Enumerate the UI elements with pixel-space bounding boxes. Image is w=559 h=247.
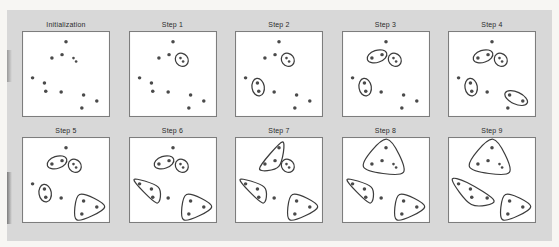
data-point: [256, 81, 260, 84]
data-point: [508, 199, 512, 202]
data-point: [501, 166, 504, 169]
data-point: [521, 205, 525, 208]
data-point: [392, 163, 395, 166]
data-point: [273, 53, 277, 56]
data-point: [506, 212, 510, 215]
data-point: [167, 53, 171, 56]
data-point: [149, 81, 153, 84]
data-point: [179, 163, 182, 166]
panel-step-1: Step 1: [129, 17, 217, 117]
data-point: [31, 76, 35, 79]
panel-plot: [235, 31, 323, 117]
panel-title: Initialization: [22, 17, 110, 31]
clustering-figure: InitializationStep 1Step 2Step 3Step 4St…: [7, 10, 552, 241]
data-point: [256, 187, 260, 190]
data-point: [350, 76, 354, 79]
data-point: [384, 40, 388, 43]
data-point: [401, 93, 405, 96]
data-point: [501, 60, 504, 63]
panel-canvas: [129, 31, 217, 117]
data-point: [457, 76, 461, 79]
data-point: [380, 53, 384, 56]
panel-plot: [342, 31, 430, 117]
data-point: [364, 195, 368, 198]
data-point: [415, 99, 419, 102]
data-point: [43, 187, 47, 190]
data-point: [362, 81, 366, 84]
data-point: [394, 166, 397, 169]
data-point: [171, 40, 175, 43]
data-point: [370, 162, 374, 165]
data-point: [202, 99, 206, 102]
data-point: [82, 199, 86, 202]
panel-title: Step 3: [342, 17, 430, 31]
data-point: [400, 212, 404, 215]
data-point: [31, 182, 35, 185]
data-point: [50, 162, 54, 165]
data-point: [490, 146, 494, 149]
screenshot-root: InitializationStep 1Step 2Step 3Step 4St…: [0, 0, 559, 247]
data-point: [277, 146, 281, 149]
data-point: [188, 93, 192, 96]
data-point: [486, 53, 490, 56]
data-point: [273, 159, 277, 162]
data-point: [295, 199, 299, 202]
panel-canvas: [342, 137, 430, 223]
data-point: [498, 163, 501, 166]
data-point: [295, 93, 299, 96]
panel-plot: [129, 31, 217, 117]
data-point: [60, 53, 64, 56]
panel-canvas: [342, 31, 430, 117]
data-point: [179, 57, 182, 60]
panel-grid: InitializationStep 1Step 2Step 3Step 4St…: [22, 17, 536, 223]
data-point: [257, 195, 261, 198]
data-point: [166, 90, 170, 93]
panel-plot: [22, 31, 110, 117]
data-point: [470, 89, 474, 92]
data-point: [469, 187, 473, 190]
panel-plot: [22, 137, 110, 223]
data-point: [151, 195, 155, 198]
data-point: [293, 106, 297, 109]
data-point: [149, 187, 153, 190]
data-point: [285, 163, 288, 166]
panel-step-9: Step 9: [448, 123, 536, 223]
data-point: [470, 195, 474, 198]
data-point: [476, 56, 480, 59]
data-point: [151, 89, 155, 92]
panel-canvas: [448, 31, 536, 117]
data-point: [486, 159, 490, 162]
data-point: [72, 57, 75, 60]
data-point: [364, 89, 368, 92]
panel-title: Step 8: [342, 123, 430, 137]
data-point: [50, 56, 54, 59]
panel-frame: [342, 32, 429, 117]
data-point: [415, 205, 419, 208]
panel-title: Step 4: [448, 17, 536, 31]
data-point: [171, 146, 175, 149]
data-point: [350, 182, 354, 185]
data-point: [476, 162, 480, 165]
data-point: [380, 159, 384, 162]
data-point: [60, 159, 64, 162]
panel-frame: [23, 32, 110, 117]
data-point: [401, 199, 405, 202]
data-point: [469, 81, 473, 84]
data-point: [75, 166, 78, 169]
panel-plot: [448, 31, 536, 117]
panel-step-5: Step 5: [22, 123, 110, 223]
data-point: [44, 195, 48, 198]
panel-plot: [235, 137, 323, 223]
data-point: [370, 56, 374, 59]
data-point: [167, 159, 171, 162]
data-point: [506, 106, 510, 109]
panel-title: Step 5: [22, 123, 110, 137]
data-point: [187, 212, 191, 215]
data-point: [244, 76, 248, 79]
data-point: [59, 90, 63, 93]
data-point: [485, 196, 489, 199]
data-point: [308, 99, 312, 102]
data-point: [59, 196, 63, 199]
panel-canvas: [129, 137, 217, 223]
panel-title: Step 6: [129, 123, 217, 137]
